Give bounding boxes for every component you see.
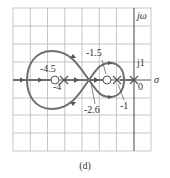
pole-label-1: -1 bbox=[120, 101, 128, 111]
zero-label-4-5: -4.5 bbox=[40, 64, 56, 74]
zero-label-1-5: -1.5 bbox=[86, 48, 102, 58]
imag-axis-label: jω bbox=[137, 11, 147, 21]
breakaway-label: -2.6 bbox=[84, 105, 100, 115]
j1-label: j1 bbox=[137, 58, 145, 68]
real-axis-label: σ bbox=[154, 75, 159, 85]
origin-label: 0 bbox=[138, 82, 143, 92]
zero-marker bbox=[103, 76, 111, 84]
pole-label-4: -4 bbox=[53, 82, 61, 92]
root-locus-plot bbox=[0, 0, 170, 178]
figure-caption: (d) bbox=[0, 160, 170, 171]
